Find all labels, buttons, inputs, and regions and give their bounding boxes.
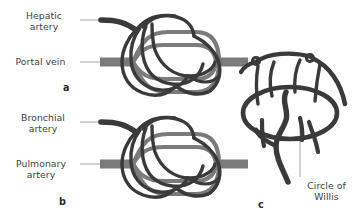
cerebral-artery-right-outer (315, 64, 320, 101)
hepatic-arc-upper-2 (143, 15, 175, 27)
cerebral-artery-left-outer (257, 66, 259, 104)
cerebral-arch-superior (256, 54, 312, 62)
label-portal-vein: Portal vein (4, 56, 77, 67)
panel-letter-a: a (63, 82, 69, 93)
label-pulmonary-artery: Pulmonary artery (4, 158, 78, 180)
bronchial-artery-trunk (101, 122, 136, 132)
anastomosis-diagram-figure: .dk { stroke:#3a3a3a; fill:none; stroke-… (0, 0, 362, 224)
label-bronchial-artery: Bronchial artery (8, 112, 78, 134)
internal-carotid-left (262, 120, 264, 146)
posterior-communicating-right (300, 118, 302, 140)
panel-b-lung-vasculature (100, 117, 248, 197)
panel-letter-b: b (59, 196, 66, 207)
label-circle-of-willis: Circle of Willis (294, 180, 359, 202)
panel-letter-c: c (258, 199, 264, 210)
bronchial-arc-upper-2 (143, 117, 175, 129)
panel-c-cerebral-vasculature (241, 54, 345, 182)
panel-a-liver-vasculature (100, 15, 248, 95)
hepatic-artery-trunk (101, 20, 136, 30)
label-hepatic-artery: Hepatic artery (11, 10, 77, 32)
